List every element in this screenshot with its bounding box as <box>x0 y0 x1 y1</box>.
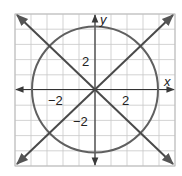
tick-label-y-neg-2: −2 <box>73 114 88 129</box>
tick-label-y-pos-2: 2 <box>82 54 89 69</box>
tick-label-x-pos-2: 2 <box>122 93 129 108</box>
tick-label-x-neg-2: −2 <box>48 93 63 108</box>
coordinate-graph: y x 2 −2 2 −2 <box>0 0 182 176</box>
x-axis-label: x <box>163 74 171 89</box>
